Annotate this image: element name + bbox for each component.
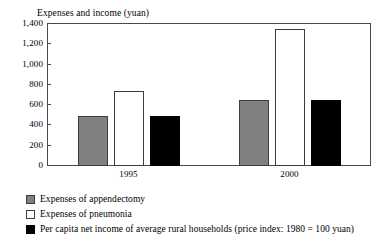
y-tick-label: 1,200	[22, 39, 43, 48]
bar	[114, 91, 144, 166]
y-tick-label: 0	[38, 161, 43, 170]
y-tick-label: 200	[29, 140, 43, 149]
legend-label: Per capita net income of average rural h…	[40, 224, 354, 235]
y-tick-mark	[47, 124, 51, 125]
bar-chart: Expenses and income (yuan) 0200400600800…	[0, 0, 387, 244]
y-tick-mark	[47, 43, 51, 44]
y-tick-mark	[47, 145, 51, 146]
legend-item: Expenses of appendectomy	[26, 192, 384, 206]
bar	[150, 116, 180, 166]
legend-item: Expenses of pneumonia	[26, 207, 384, 221]
legend-label: Expenses of appendectomy	[40, 194, 145, 205]
bars-layer	[48, 24, 370, 166]
legend-swatch-gray	[26, 195, 35, 204]
y-tick-mark	[47, 104, 51, 105]
bar	[239, 100, 269, 166]
bar	[275, 29, 305, 166]
x-tick-label: 2000	[280, 169, 298, 180]
legend-swatch-white	[26, 210, 35, 219]
y-tick-label: 400	[29, 120, 43, 129]
y-tick-label: 800	[29, 79, 43, 88]
bar	[78, 116, 108, 166]
y-tick-label: 1,400	[22, 19, 43, 28]
legend-label: Expenses of pneumonia	[40, 209, 132, 220]
legend-swatch-black	[26, 225, 35, 234]
y-tick-mark	[47, 64, 51, 65]
y-tick-label: 1,000	[22, 59, 43, 68]
y-axis: 02004006008001,0001,2001,400	[0, 23, 43, 166]
legend-item: Per capita net income of average rural h…	[26, 222, 384, 236]
y-tick-label: 600	[29, 100, 43, 109]
x-axis: 19952000	[48, 169, 370, 183]
y-tick-mark	[47, 84, 51, 85]
x-tick-label: 1995	[119, 169, 137, 180]
chart-title: Expenses and income (yuan)	[37, 7, 149, 19]
bar	[311, 100, 341, 166]
chart-legend: Expenses of appendectomyExpenses of pneu…	[26, 192, 384, 237]
